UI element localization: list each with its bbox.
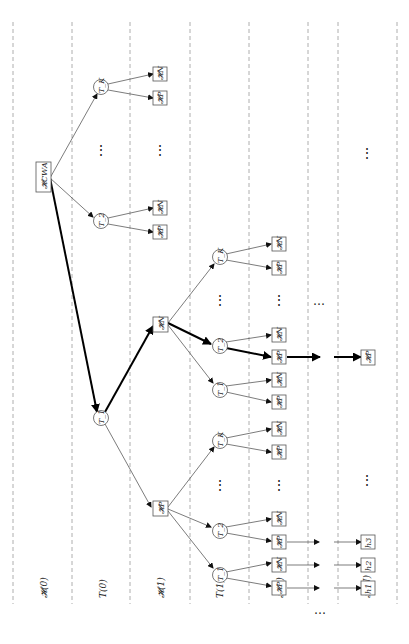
svg-text:𝓗N: 𝓗N [156,199,165,214]
leaf-hn-hp-final: 𝓗P [361,350,375,365]
svg-text:T_2: T_2 [216,523,225,537]
node-t0-t2: T_2 [94,213,109,229]
node-t1-t1-upper: T_1 [213,382,228,398]
svg-text:𝓗P: 𝓗P [275,581,284,594]
svg-text:𝓗N: 𝓗N [275,556,284,571]
ellipsis-h2-upper: ⋮ [272,292,286,308]
node-t1-t2-upper: T_2 [213,338,228,354]
svg-text:𝓗N: 𝓗N [275,326,284,341]
leaf-h2-p-1: 𝓗P [272,261,286,275]
ellipsis-h2-lower: ⋮ [272,477,286,493]
svg-text:𝓗N: 𝓗N [275,420,284,435]
node-t1-t1-lower: T_1 [213,567,228,583]
svg-text:T_K: T_K [216,431,225,447]
svg-text:𝓗P: 𝓗P [156,91,165,104]
svg-text:𝓗N: 𝓗N [156,65,165,80]
svg-text:T_1: T_1 [216,382,225,396]
ellipsis-t1-lower: ⋮ [213,477,227,493]
svg-text:𝓗N: 𝓗N [275,235,284,250]
node-t1-tk-upper: T_K [213,247,228,265]
leaf-h2-n-2: 𝓗N [272,326,286,342]
node-t1-tk-lower: T_K [213,431,228,449]
svg-text:𝓗N: 𝓗N [275,510,284,525]
ellipsis-t0: ⋮ [94,142,108,158]
node-root-hcwa: 𝓗CWA [36,162,51,192]
leaf-h2-n-4: 𝓗N [272,420,286,436]
svg-text:h2: h2 [364,561,373,571]
leaf-h2-n-6: 𝓗N [272,556,286,572]
column-label-h1: 𝓗(1) [156,577,166,598]
svg-text:𝓗N: 𝓗N [275,371,284,386]
leaf-h1-p-mid: 𝓗P [153,225,167,239]
svg-text:h1: h1 [364,584,373,594]
node-t1-t2-lower: T_2 [213,523,228,539]
column-label-ellipsis: … [314,603,326,617]
leaf-h2-n-5: 𝓗N [272,510,286,526]
decision-tree-diagram: 𝓗(0) 𝓗(0) T(0) 𝓗(1) T(1) 𝓗(2) … 𝓗(N) [0,0,409,644]
svg-text:T_2: T_2 [216,338,225,352]
node-h1-p: 𝓗P [153,501,168,516]
svg-text:T_K: T_K [216,247,225,263]
svg-text:T_1: T_1 [216,567,225,581]
leaf-hn-h2: h2 [361,558,375,572]
leaf-h2-p-4: 𝓗P [272,445,286,459]
svg-text:𝓗P: 𝓗P [364,350,373,363]
leaf-h2-p-5: 𝓗P [272,535,286,549]
column-label-t0: T(0) [98,579,108,598]
svg-text:𝓗N: 𝓗N [157,315,166,330]
svg-text:𝓗P: 𝓗P [275,350,284,363]
svg-text:𝓗P: 𝓗P [275,261,284,274]
svg-text:𝓗P: 𝓗P [156,225,165,238]
svg-text:𝓗P: 𝓗P [157,501,166,514]
column-separators [13,22,397,604]
svg-text:𝓗P: 𝓗P [275,535,284,548]
leaf-hn-h1: h1 [361,581,375,595]
node-h1-n: 𝓗N [153,315,168,332]
node-t0-t1: T_1 [94,410,109,426]
svg-text:T_2: T_2 [97,213,106,227]
leaf-h1-p-top: 𝓗P [153,91,167,105]
svg-text:𝓗P: 𝓗P [275,445,284,458]
leaf-h2-p-3: 𝓗P [272,395,286,409]
leaf-h2-p-2-bold: 𝓗P [272,350,286,364]
leaf-h1-n-mid: 𝓗N [153,199,167,215]
ellipsis-hn-upper: ⋮ [360,145,374,161]
leaf-h2-n-3: 𝓗N [272,371,286,387]
svg-text:T_K: T_K [97,77,106,93]
svg-text:𝓗P: 𝓗P [275,395,284,408]
leaf-hn-h3: h3 [361,535,375,549]
svg-text:h3: h3 [364,538,373,548]
leaf-h2-p-6: 𝓗P [272,581,286,595]
column-labels: 𝓗(0) 𝓗(0) T(0) 𝓗(1) T(1) 𝓗(2) … 𝓗(N) [39,575,372,617]
column-label-h0: 𝓗(0) [39,577,49,598]
ellipsis-hn-lower: ⋮ [360,472,374,488]
node-t0-tk: T_K [94,77,109,95]
leaf-h2-group: 𝓗N 𝓗P 𝓗N 𝓗P 𝓗N 𝓗P 𝓗N 𝓗P 𝓗N 𝓗P 𝓗N 𝓗P [272,235,286,595]
svg-text:T_1: T_1 [97,410,106,424]
ellipsis-t1-upper: ⋮ [213,292,227,308]
ellipsis-h1: ⋮ [153,142,167,158]
leaf-h1-n-top: 𝓗N [153,65,167,81]
leaf-h2-n-1: 𝓗N [272,235,286,251]
hellipsis-mid: … [313,294,325,308]
svg-text:𝓗CWA: 𝓗CWA [40,162,49,189]
